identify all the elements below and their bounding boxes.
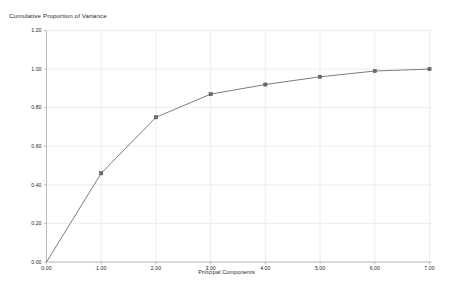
data-series-line [47, 69, 430, 262]
x-axis-title: Principal Components [0, 269, 453, 275]
y-tick-label: 0.60 [16, 143, 42, 149]
data-point-marker [428, 67, 431, 70]
plot-area [0, 0, 453, 292]
chart-container: Cumulative Proportion of Variance 0.000.… [0, 0, 453, 292]
y-tick-label: 0.80 [16, 104, 42, 110]
data-point-marker [264, 83, 267, 86]
gridlines [47, 31, 432, 263]
data-point-marker [209, 93, 212, 96]
y-tick-label: 1.20 [16, 27, 42, 33]
data-point-marker [373, 69, 376, 72]
y-tick-label: 0.40 [16, 182, 42, 188]
y-tick-label: 1.00 [16, 66, 42, 72]
axis-lines [44, 31, 432, 265]
data-point-marker [154, 116, 157, 119]
y-tick-label: 0.20 [16, 220, 42, 226]
data-point-marker [100, 172, 103, 175]
data-point-marker [318, 75, 321, 78]
series-line [47, 69, 430, 262]
y-tick-label: 0.00 [16, 259, 42, 265]
